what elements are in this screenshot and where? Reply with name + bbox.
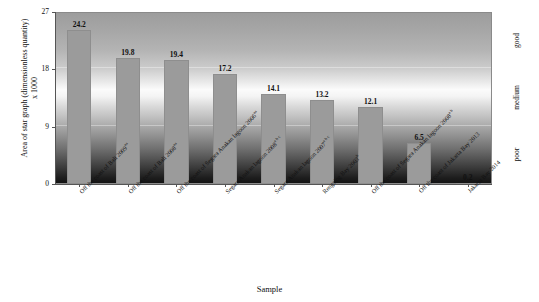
y-axis-title-line2: x 1000 <box>30 77 39 99</box>
y-tick-mark <box>52 127 55 128</box>
quality-label-medium: medium <box>512 76 521 120</box>
bar <box>67 30 91 184</box>
bar-value-label: 24.2 <box>63 20 95 29</box>
y-axis-line <box>55 12 56 184</box>
y-axis-title-line1: Area of star graph (dimensionless quanti… <box>20 19 29 158</box>
bar-value-label: 17.2 <box>209 64 241 73</box>
y-axis-title: Area of star graph (dimensionless quanti… <box>20 3 40 173</box>
y-tick-mark <box>52 69 55 70</box>
bar-value-label: 12.1 <box>355 97 387 106</box>
bar-value-label: 14.1 <box>258 84 290 93</box>
bar <box>358 107 382 184</box>
bar-value-label: 19.8 <box>112 48 144 57</box>
quality-label-good: good <box>512 21 521 61</box>
bar <box>164 60 188 184</box>
bar-value-label: 13.2 <box>306 90 338 99</box>
bar <box>116 58 140 184</box>
x-axis-title: Sample <box>0 284 539 294</box>
y-tick-label: 0 <box>33 179 49 188</box>
quality-label-poor: poor <box>512 135 521 175</box>
bar-value-label: 19.4 <box>160 50 192 59</box>
y-tick-mark <box>52 12 55 13</box>
bar-chart-figure: 24.219.819.417.214.113.212.16.50.2 09182… <box>0 0 539 302</box>
y-tick-mark <box>52 184 55 185</box>
